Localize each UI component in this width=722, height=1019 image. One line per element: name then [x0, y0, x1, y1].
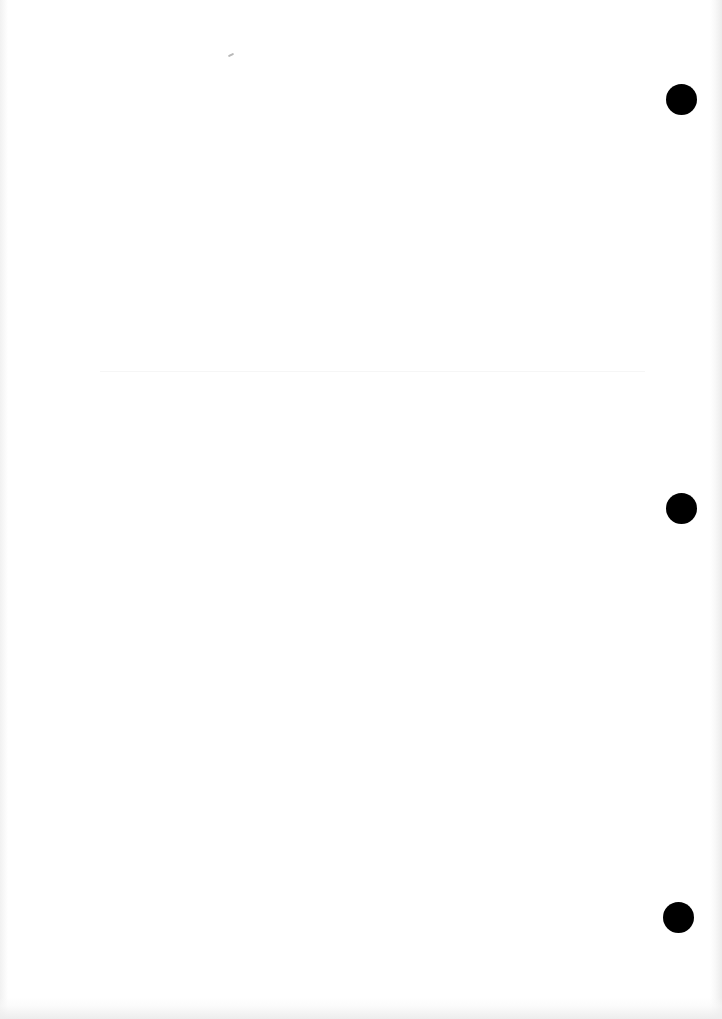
punch-hole-bottom — [663, 902, 694, 933]
scan-edge-shadow-bottom — [0, 997, 722, 1019]
punch-hole-middle — [666, 493, 697, 524]
scan-edge-shadow-left — [0, 0, 8, 1019]
scan-edge-shadow-right — [710, 0, 722, 1019]
dust-speck — [228, 53, 234, 57]
faint-show-through-line — [100, 371, 645, 372]
punch-hole-top — [666, 84, 697, 115]
blank-page — [0, 0, 722, 1019]
